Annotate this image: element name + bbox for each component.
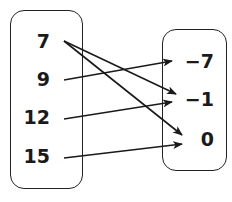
arrow-15-to-0 [64, 144, 182, 158]
arrow-12-to-−1 [64, 102, 172, 119]
mapping-arrows [0, 0, 232, 202]
arrow-9-to-−7 [64, 61, 172, 80]
